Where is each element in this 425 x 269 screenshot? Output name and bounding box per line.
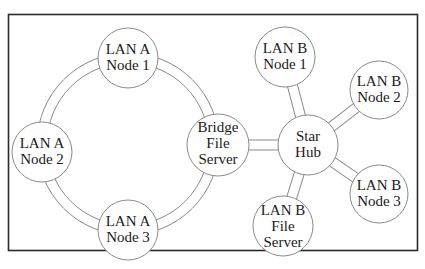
node-lan-b-file-server: LAN B File Server [253,196,313,256]
node-lan-b-node-2: LAN B Node 2 [350,61,408,119]
node-lan-a-node-1: LAN A Node 1 [98,28,158,88]
node-lan-b-node-1: LAN B Node 1 [255,27,315,87]
node-label-line: Hub [295,144,321,160]
node-star-hub: Star Hub [278,115,338,175]
node-lan-b-node-3: LAN B Node 3 [350,165,408,223]
node-label-line: LAN B [261,202,306,218]
node-label-line: Server [263,234,302,250]
node-label-line: LAN B [263,40,308,56]
node-label-line: Bridge [198,119,239,135]
node-lan-a-node-2: LAN A Node 2 [12,122,72,182]
network-diagram: LAN A Node 1 LAN A Node 2 LAN A Node 3 B… [0,0,425,269]
node-label-line: File [271,218,295,234]
node-label-line: Node 2 [20,151,64,167]
node-label-line: Node 2 [357,89,401,105]
node-label-line: Node 1 [263,56,307,72]
node-bridge-file-server: Bridge File Server [187,114,249,176]
node-label-line: LAN B [357,177,402,193]
node-label-line: LAN A [106,213,151,229]
node-label-line: Node 3 [106,229,150,245]
node-label-line: Server [198,151,237,167]
node-lan-a-node-3: LAN A Node 3 [98,200,158,260]
node-label-line: Node 1 [106,57,150,73]
node-label-line: LAN B [357,73,402,89]
node-label-line: LAN A [20,135,65,151]
node-label-line: Star [296,128,320,144]
node-label-line: Node 3 [357,193,401,209]
node-label-line: File [206,135,230,151]
node-label-line: LAN A [106,41,151,57]
